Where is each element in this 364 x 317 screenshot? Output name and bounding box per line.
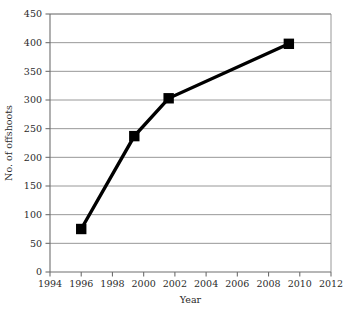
chart-figure: 050100150200250300350400450 199419961998… [0,0,364,317]
x-tick-label-2010: 2010 [288,278,312,289]
x-tick-label-2004: 2004 [194,278,218,289]
y-tick-label-300: 300 [24,94,42,105]
plot-background [50,14,331,272]
data-point-marker-0 [76,224,86,234]
x-tick-label-2006: 2006 [225,278,249,289]
y-axis-title: No. of offshoots [3,105,14,181]
y-tick-label-400: 400 [24,37,42,48]
y-tick-label-50: 50 [30,238,42,249]
data-point-marker-3 [284,39,294,49]
x-tick-label-2000: 2000 [132,278,156,289]
y-axis-ticks-group: 050100150200250300350400450 [24,8,50,277]
line-chart-canvas: 050100150200250300350400450 199419961998… [0,0,364,317]
x-axis-title: Year [179,294,202,305]
data-point-marker-2 [163,93,173,103]
y-tick-label-0: 0 [36,266,42,277]
x-tick-label-1996: 1996 [69,278,93,289]
x-tick-label-2002: 2002 [163,278,187,289]
x-tick-label-2008: 2008 [256,278,280,289]
y-tick-label-150: 150 [24,180,42,191]
x-tick-label-2012: 2012 [319,278,343,289]
y-tick-label-100: 100 [24,209,42,220]
data-point-marker-1 [129,131,139,141]
y-tick-label-450: 450 [24,8,42,19]
x-axis-ticks-group: 1994199619982000200220042006200820102012 [38,272,343,289]
x-tick-label-1994: 1994 [38,278,62,289]
y-tick-label-250: 250 [24,123,42,134]
y-tick-label-350: 350 [24,66,42,77]
x-tick-label-1998: 1998 [100,278,124,289]
y-tick-label-200: 200 [24,152,42,163]
